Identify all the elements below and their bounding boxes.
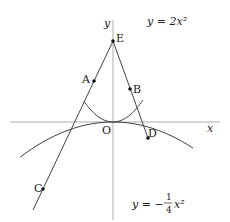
label-a: A — [81, 73, 91, 86]
label-y-axis: y — [103, 17, 111, 30]
label-lower-suffix: x² — [174, 198, 185, 211]
label-x-axis: x — [207, 122, 214, 135]
point-a — [92, 79, 96, 83]
label-lower-den: 4 — [166, 205, 172, 215]
label-b: B — [133, 83, 141, 96]
line-ec — [33, 41, 113, 210]
label-lower-num: 1 — [166, 192, 172, 202]
label-lower-prefix: y = − — [131, 198, 164, 211]
diagram-svg: E A B D C O x y y = 2x² y = − 1 4 x² — [0, 0, 230, 222]
upper-parabola-curve — [84, 100, 143, 122]
point-e — [111, 39, 115, 43]
label-c: C — [34, 182, 42, 195]
label-d: D — [148, 127, 157, 140]
diagram: E A B D C O x y y = 2x² y = − 1 4 x² — [0, 0, 230, 222]
label-upper-parabola: y = 2x² — [146, 15, 187, 28]
point-b — [128, 87, 132, 91]
label-e: E — [116, 32, 124, 45]
label-origin: O — [102, 124, 111, 137]
